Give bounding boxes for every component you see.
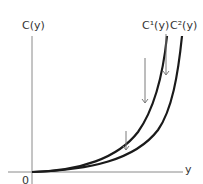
origin-label: 0	[22, 174, 29, 184]
arrow-icon	[142, 58, 148, 103]
curve1-label: C¹(y)	[142, 19, 169, 32]
x-axis-label: y	[185, 163, 192, 176]
curve2-label: C²(y)	[170, 19, 197, 32]
curve-c1	[32, 36, 167, 172]
arrow-icon	[123, 131, 129, 150]
curve-c2	[32, 36, 182, 172]
cost-curves-diagram: C(y) C¹(y) C²(y) 0 y	[0, 0, 203, 184]
y-axis-label: C(y)	[22, 19, 45, 32]
